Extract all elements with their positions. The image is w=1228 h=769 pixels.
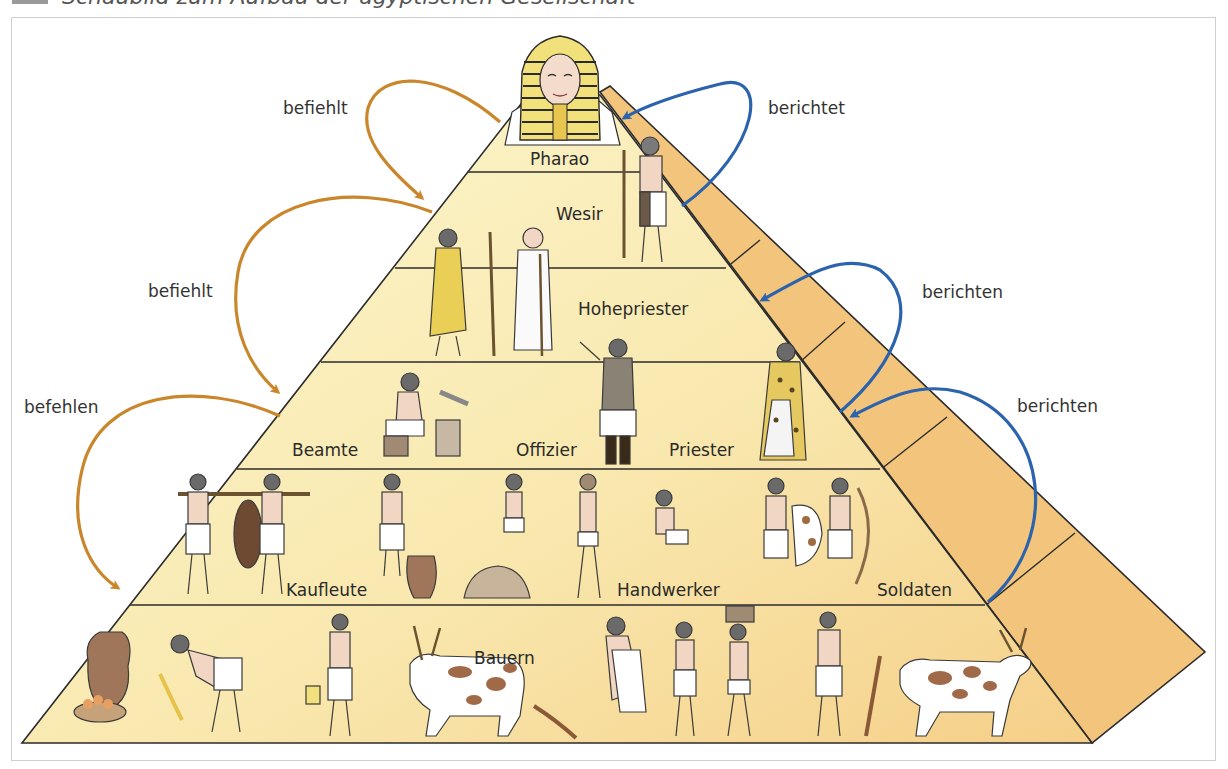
- level-label-offizier: Offizier: [516, 442, 577, 459]
- relation-label-befiehlt-2: befiehlt: [148, 283, 213, 300]
- level-label-pharao: Pharao: [530, 151, 589, 168]
- level-label-priester: Priester: [669, 442, 734, 459]
- relation-label-befehlen: befehlen: [24, 399, 98, 416]
- level-label-soldaten: Soldaten: [877, 582, 952, 599]
- level-label-bauern: Bauern: [474, 650, 535, 667]
- level-label-hohepriester: Hohepriester: [578, 301, 688, 318]
- level-label-kaufleute: Kaufleute: [286, 582, 367, 599]
- relation-label-berichtet: berichtet: [768, 100, 845, 117]
- level-label-handwerker: Handwerker: [617, 582, 720, 599]
- relation-label-berichten-2: berichten: [1017, 398, 1098, 415]
- pyramid-diagram: [0, 0, 1228, 769]
- relation-label-befiehlt-1: befiehlt: [283, 100, 348, 117]
- level-label-wesir: Wesir: [556, 206, 603, 223]
- relation-label-berichten-1: berichten: [922, 284, 1003, 301]
- level-label-beamte: Beamte: [292, 442, 358, 459]
